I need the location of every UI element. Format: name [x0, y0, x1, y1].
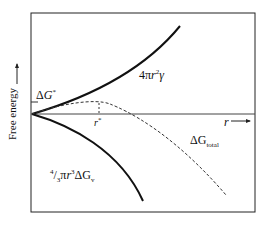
surface-term-label: 4πr2γ — [139, 69, 164, 81]
critical-barrier-label: ΔG* — [36, 89, 56, 101]
volume-energy-curve — [32, 114, 143, 201]
nucleation-diagram — [0, 0, 267, 227]
r-arrow-icon — [246, 119, 251, 123]
total-energy-label: ΔGtotal — [190, 134, 219, 149]
r-axis-label: r — [224, 116, 229, 128]
y-arrow-icon — [15, 63, 19, 68]
y-axis-label: Free energy — [6, 88, 18, 140]
volume-term-label: 4/3πr3ΔGv — [50, 169, 94, 184]
critical-radius-label: r* — [94, 117, 101, 128]
